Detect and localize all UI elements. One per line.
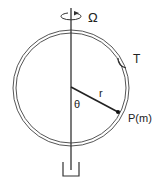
- hoop-label: T: [133, 52, 141, 66]
- omega-label: Ω: [88, 10, 98, 25]
- point-label: P(m): [128, 112, 152, 124]
- theta-label: θ: [74, 98, 80, 110]
- hoop-diagram: Ω T θ r P(m): [0, 0, 159, 187]
- mass-point: [116, 110, 120, 114]
- radius-label: r: [99, 87, 103, 99]
